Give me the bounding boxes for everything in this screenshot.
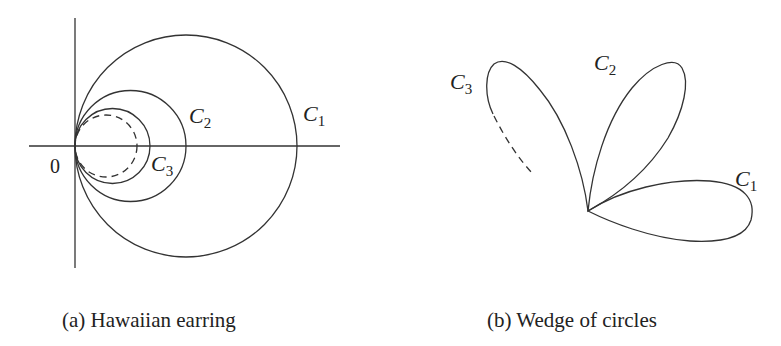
label-c1: C1	[303, 101, 325, 129]
caption-wedge-of-circles: (b) Wedge of circles	[487, 308, 657, 333]
label-c1: C1	[735, 166, 757, 194]
loop-c3-dashed	[494, 116, 533, 174]
label-c2: C2	[189, 103, 211, 131]
loop-c3	[487, 61, 588, 211]
label-c3: C3	[450, 69, 472, 97]
caption-hawaiian-earring: (a) Hawaiian earring	[62, 308, 236, 333]
figure-canvas: 0 C1 C2 C3 C1 C2 C3	[0, 0, 781, 346]
origin-label: 0	[50, 155, 60, 177]
label-c3: C3	[151, 151, 173, 179]
loop-c1	[588, 181, 752, 242]
label-c2: C2	[594, 50, 616, 78]
loop-c2	[588, 62, 686, 211]
hawaiian-earring-diagram: 0 C1 C2 C3	[29, 18, 340, 268]
wedge-of-circles-diagram: C1 C2 C3	[450, 50, 757, 241]
